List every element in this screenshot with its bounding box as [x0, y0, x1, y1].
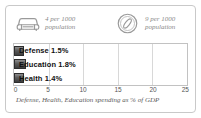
x-tick-20: 20: [149, 86, 156, 93]
bar-row-education: Education 1.8%: [14, 59, 187, 70]
stat-item-cars: 4 per 1000 population: [11, 12, 111, 34]
bar-row-health: Health 1.4%: [14, 73, 187, 84]
stat-disc-line2: population: [145, 23, 175, 31]
bar-series: Defense 1.5% Education 1.8% Health 1.4%: [14, 44, 187, 85]
x-tick-10: 10: [79, 86, 86, 93]
x-axis: 0 5 10 15 20 25: [13, 86, 188, 96]
bar-label-health: Health 1.4%: [19, 73, 62, 84]
disc-slash-icon: [114, 12, 141, 34]
chart-caption: Defense, Health, Education spending as %…: [13, 96, 188, 104]
stat-label-disc: 9 per 1000 population: [145, 15, 175, 32]
bar-label-education: Education 1.8%: [19, 59, 76, 70]
card-frame: 4 per 1000 population 9 per 1000 populat…: [5, 5, 196, 113]
x-tick-15: 15: [114, 86, 121, 93]
x-tick-0: 0: [14, 86, 18, 93]
plot-area: Defense 1.5% Education 1.8% Health 1.4%: [13, 43, 188, 86]
stat-cars-line1: 4 per 1000: [45, 15, 75, 23]
bar-row-defense: Defense 1.5%: [14, 45, 187, 56]
stat-disc-line1: 9 per 1000: [145, 15, 175, 23]
stat-cars-line2: population: [45, 23, 75, 31]
x-tick-5: 5: [46, 86, 50, 93]
stat-item-disc: 9 per 1000 population: [111, 12, 175, 34]
x-tick-25: 25: [182, 86, 189, 93]
car-icon: [14, 12, 41, 34]
stat-label-cars: 4 per 1000 population: [45, 15, 75, 32]
infographic-card: 4 per 1000 population 9 per 1000 populat…: [0, 0, 201, 118]
bar-label-defense: Defense 1.5%: [19, 45, 69, 56]
bar-chart: Defense 1.5% Education 1.8% Health 1.4% …: [11, 43, 190, 104]
stats-row: 4 per 1000 population 9 per 1000 populat…: [11, 10, 190, 42]
